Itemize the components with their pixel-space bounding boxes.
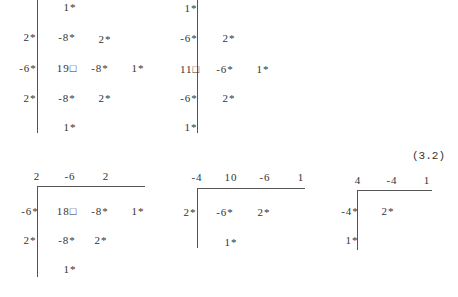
stencil-coefficient: 2* bbox=[223, 93, 236, 104]
stencil-coefficient: 1* bbox=[64, 122, 77, 133]
stencil-coefficient: 2* bbox=[24, 235, 37, 246]
stencil-coefficient: 1* bbox=[185, 122, 198, 133]
stencil-coefficient: -4* bbox=[341, 206, 359, 217]
stencil-coefficient: -6* bbox=[180, 93, 198, 104]
stencil-coefficient: -6* bbox=[21, 206, 39, 217]
stencil-coefficient: -6* bbox=[180, 33, 198, 44]
stencil-coefficient: 1* bbox=[225, 237, 238, 248]
stencil-coefficient: 11□ bbox=[180, 64, 200, 75]
horizontal-axis-line bbox=[357, 190, 432, 191]
stencil-coefficient: -8* bbox=[91, 63, 109, 74]
stencil-coefficient: 2* bbox=[258, 207, 271, 218]
stencil-coefficient: 2* bbox=[95, 235, 108, 246]
stencil-coefficient: 1* bbox=[132, 63, 145, 74]
stencil-coefficient: 1* bbox=[346, 235, 359, 246]
stencil-coefficient: 2 bbox=[34, 171, 41, 182]
stencil-coefficient: 2* bbox=[382, 206, 395, 217]
vertical-axis-line bbox=[197, 188, 198, 248]
stencil-coefficient: 10 bbox=[225, 172, 238, 183]
horizontal-axis-line bbox=[197, 188, 305, 189]
horizontal-axis-line bbox=[37, 186, 145, 187]
stencil-coefficient: -6* bbox=[216, 207, 234, 218]
stencil-coefficient: 2* bbox=[24, 32, 37, 43]
stencil-coefficient: 19□ bbox=[57, 63, 78, 74]
stencil-coefficient: 1* bbox=[257, 64, 270, 75]
vertical-axis-line bbox=[37, 186, 38, 277]
stencil-coefficient: -6 bbox=[64, 171, 75, 182]
stencil-coefficient: 18□ bbox=[57, 206, 78, 217]
stencil-coefficient: -8* bbox=[58, 32, 76, 43]
equation-number: (3.2) bbox=[412, 150, 445, 162]
stencil-coefficient: -4 bbox=[386, 175, 397, 186]
stencil-coefficient: 2* bbox=[184, 207, 197, 218]
stencil-coefficient: 1 bbox=[298, 172, 305, 183]
stencil-coefficient: -8* bbox=[58, 235, 76, 246]
vertical-axis-line bbox=[37, 0, 38, 133]
stencil-figure: 1*2*-8*2*-6*19□-8*1*2*-8*2*1*1*-6*2*11□-… bbox=[0, 0, 458, 297]
stencil-coefficient: 2* bbox=[99, 93, 112, 104]
stencil-coefficient: -4 bbox=[191, 172, 202, 183]
stencil-coefficient: 2* bbox=[99, 34, 112, 45]
stencil-coefficient: 1 bbox=[424, 175, 431, 186]
stencil-coefficient: 2* bbox=[24, 93, 37, 104]
stencil-coefficient: -6* bbox=[19, 63, 37, 74]
stencil-coefficient: -8* bbox=[58, 93, 76, 104]
stencil-coefficient: -6 bbox=[259, 172, 270, 183]
stencil-coefficient: 2 bbox=[103, 171, 110, 182]
stencil-coefficient: 2* bbox=[223, 33, 236, 44]
stencil-coefficient: 4 bbox=[355, 175, 362, 186]
stencil-coefficient: 1* bbox=[132, 206, 145, 217]
stencil-coefficient: -6* bbox=[216, 64, 234, 75]
stencil-coefficient: 1* bbox=[64, 264, 77, 275]
stencil-coefficient: 1* bbox=[64, 2, 77, 13]
stencil-coefficient: -8* bbox=[91, 206, 109, 217]
stencil-coefficient: 1* bbox=[185, 3, 198, 14]
